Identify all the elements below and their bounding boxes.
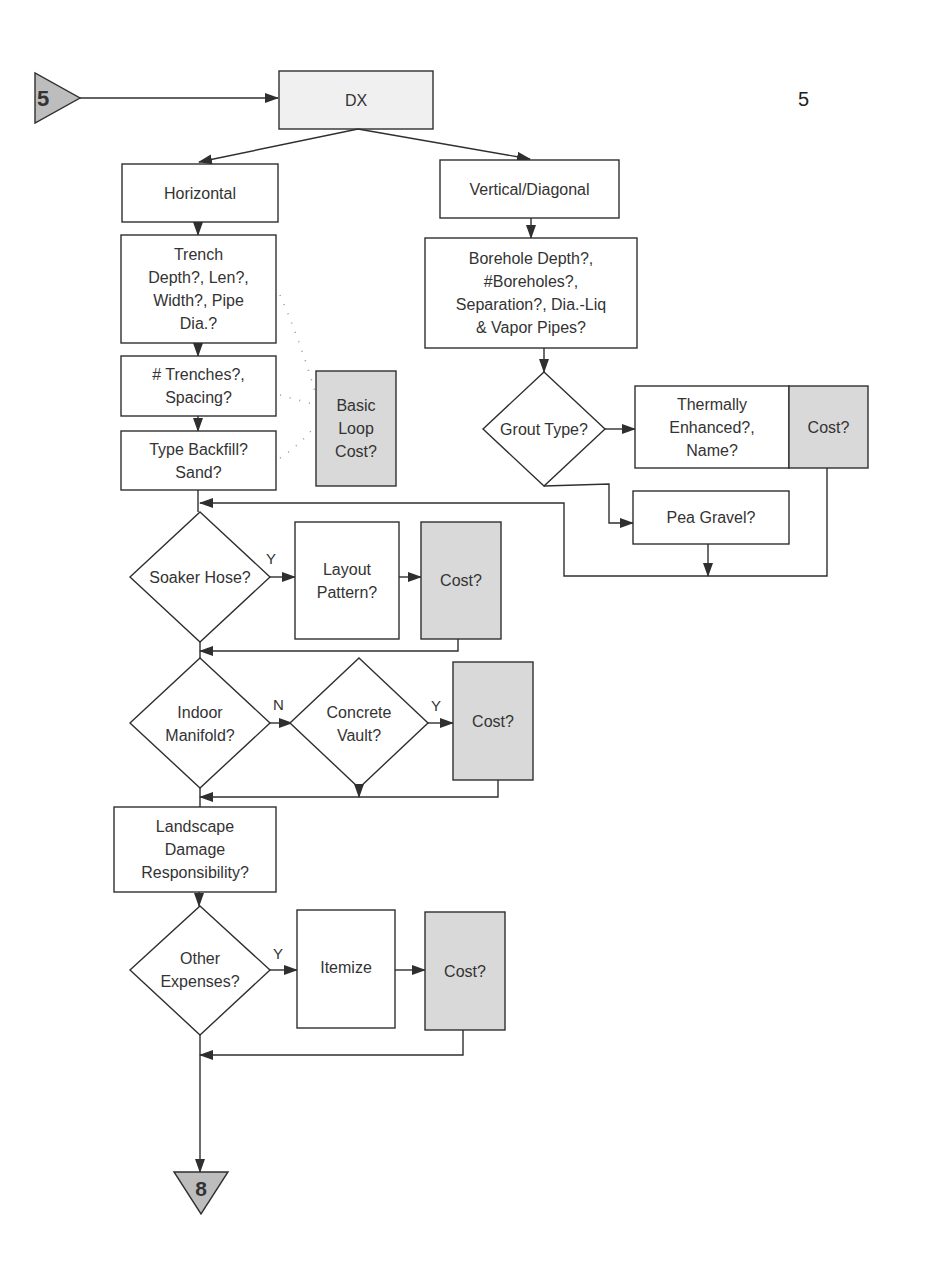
other-yes-label: Y [273, 945, 283, 962]
start-connector-label: 5 [35, 86, 63, 110]
layout-pattern-label: Layout Pattern? [295, 522, 399, 639]
vault-cost-label: Cost? [453, 662, 533, 780]
edge-dx-to-horizontal [199, 129, 358, 162]
end-connector-label: 8 [186, 1176, 216, 1200]
thermally-enhanced-label: Thermally Enhanced?, Name? [635, 386, 789, 468]
other-cost-label: Cost? [425, 912, 505, 1030]
borehole-label: Borehole Depth?, #Boreholes?, Separation… [425, 238, 637, 348]
soaker-hose-label: Soaker Hose? [125, 563, 275, 591]
indoor-manifold-label: Indoor Manifold? [140, 700, 260, 748]
itemize-label: Itemize [297, 910, 395, 1028]
soaker-cost-label: Cost? [421, 522, 501, 639]
grout-type-label: Grout Type? [478, 415, 610, 443]
horizontal-label: Horizontal [122, 164, 278, 222]
edge-dx-to-vertical [358, 129, 530, 159]
other-expenses-label: Other Expenses? [140, 946, 260, 994]
vertical-label: Vertical/Diagonal [440, 160, 619, 218]
soaker-yes-label: Y [266, 550, 276, 567]
vault-yes-label: Y [431, 697, 441, 714]
trench-label: Trench Depth?, Len?, Width?, Pipe Dia.? [121, 235, 276, 343]
dx-label: DX [279, 71, 433, 129]
manifold-no-label: N [273, 696, 284, 713]
trenches-label: # Trenches?, Spacing? [121, 356, 276, 416]
backfill-label: Type Backfill? Sand? [121, 431, 276, 490]
landscape-label: Landscape Damage Responsibility? [114, 807, 276, 892]
concrete-vault-label: Concrete Vault? [299, 700, 419, 748]
page-number: 5 [798, 88, 809, 111]
pea-gravel-label: Pea Gravel? [633, 491, 789, 544]
grout-cost-label: Cost? [789, 386, 868, 468]
basic-loop-cost-label: Basic Loop Cost? [316, 371, 396, 486]
